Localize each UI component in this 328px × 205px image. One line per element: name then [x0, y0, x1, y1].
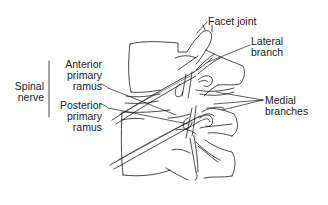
- label-line: branch: [251, 47, 283, 58]
- label-spinal-nerve: Spinal nerve: [10, 81, 44, 103]
- leader-medial-branch-1: [216, 92, 263, 100]
- label-facet-joint: Facet joint: [208, 16, 256, 27]
- leader-lateral-branch: [208, 45, 250, 62]
- lower-vertebral-body: [121, 110, 170, 176]
- leader-posterior-ramus: [101, 104, 188, 124]
- leader-facet-joint: [197, 22, 207, 33]
- lower-spinal-nerve: [110, 106, 232, 180]
- label-lateral-branch: Lateral branch: [251, 36, 283, 58]
- label-line: Facet joint: [208, 16, 256, 27]
- leader-lines: [101, 22, 263, 124]
- leader-anterior-ramus: [101, 84, 176, 115]
- lower-posterior-elements: [166, 108, 238, 180]
- spine-nerve-diagram: Facet joint Lateral branch Medial branch…: [0, 0, 328, 205]
- label-line: nerve: [10, 92, 44, 103]
- label-line: ramus: [58, 81, 102, 92]
- label-posterior-primary-ramus: Posterior primary ramus: [52, 100, 102, 133]
- label-medial-branches: Medial branches: [265, 95, 308, 117]
- label-anterior-primary-ramus: Anterior primary ramus: [58, 59, 102, 92]
- label-line: branches: [265, 106, 308, 117]
- label-line: ramus: [52, 122, 102, 133]
- upper-vertebral-body: [129, 37, 198, 92]
